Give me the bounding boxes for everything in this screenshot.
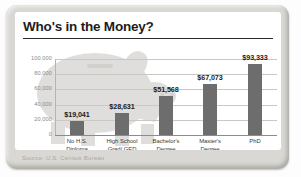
bar <box>159 96 173 135</box>
x-axis-tick-label: Bachelor'sDegree <box>142 138 190 150</box>
x-axis <box>55 135 277 136</box>
x-axis-tick-label: PhD <box>231 138 279 146</box>
bar-value-label: $19,041 <box>53 110 101 119</box>
x-axis-tick-label-line: Degree <box>142 146 190 150</box>
bar-value-label: $51,568 <box>142 85 190 94</box>
y-axis-tick-label: 20,000 <box>34 116 52 122</box>
bar-value-label: $67,073 <box>186 73 234 82</box>
bar-value-label: $93,333 <box>231 53 279 62</box>
x-axis-tick-label-line: No H.S. <box>53 138 101 146</box>
x-axis-tick-label: High SchoolGrad/ GED <box>98 138 146 150</box>
y-axis-tick-label: 100,000 <box>31 55 52 61</box>
x-axis-tick-label: Master'sDegree <box>186 138 234 150</box>
gridline <box>55 74 277 75</box>
x-axis-tick-label-line: Bachelor's <box>142 138 190 146</box>
x-axis-tick-label-line: Diploma <box>53 146 101 150</box>
scanned-page: Who's in the Money? 100,00080,00060,0004… <box>0 0 301 177</box>
bar <box>70 121 84 135</box>
x-axis-tick-label-line: Grad/ GED <box>98 146 146 150</box>
x-axis-tick-label-line: Degree <box>186 146 234 150</box>
chart-source: Source: U.S. Census Bureau <box>22 155 104 161</box>
y-axis-tick-label: 0 <box>49 131 52 137</box>
y-axis-tick-label: 80,000 <box>34 70 52 76</box>
y-axis <box>55 59 56 135</box>
y-axis-tick-label: 40,000 <box>34 101 52 107</box>
x-axis-tick-label: No H.S.Diploma <box>53 138 101 150</box>
bar <box>203 84 217 135</box>
y-axis-tick-label: 60,000 <box>34 85 52 91</box>
x-axis-tick-label-line: PhD <box>231 138 279 146</box>
chart-panel: Who's in the Money? 100,00080,00060,0004… <box>15 12 281 150</box>
x-axis-tick-label-line: High School <box>98 138 146 146</box>
chart-card: Who's in the Money? 100,00080,00060,0004… <box>6 5 289 169</box>
bar-value-label: $28,631 <box>98 102 146 111</box>
bar <box>248 64 262 135</box>
bar-chart: 100,00080,00060,00040,00020,0000$19,041N… <box>15 12 281 150</box>
bar <box>115 113 129 135</box>
x-axis-tick-label-line: Master's <box>186 138 234 146</box>
